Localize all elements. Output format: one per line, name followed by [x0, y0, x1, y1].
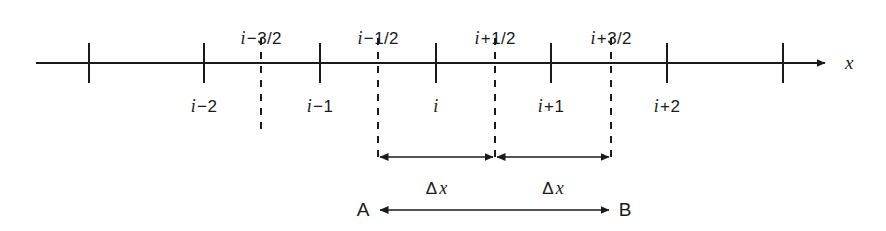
x-axis-label: x [845, 52, 853, 74]
cell-face-label: i−3/2 [240, 28, 281, 49]
extent-start-label: A [357, 199, 370, 221]
grid-node-label: i+1 [538, 96, 565, 117]
grid-node-label: i−1 [307, 96, 334, 117]
grid-node-label: i−2 [191, 96, 218, 117]
cell-face-label: i+1/2 [474, 28, 515, 49]
spacing-label: Δx [426, 178, 447, 199]
grid-node-label: i [433, 96, 439, 117]
cell-face-label: i+3/2 [590, 28, 631, 49]
grid-node-label: i+2 [654, 96, 681, 117]
spacing-label: Δx [542, 178, 563, 199]
cell-face-label: i−1/2 [357, 28, 398, 49]
extent-end-label: B [619, 199, 632, 221]
grid-discretization-diagram: i−2i−1ii+1i+2i−3/2i−1/2i+1/2i+3/2ΔxΔxAB … [0, 0, 886, 231]
